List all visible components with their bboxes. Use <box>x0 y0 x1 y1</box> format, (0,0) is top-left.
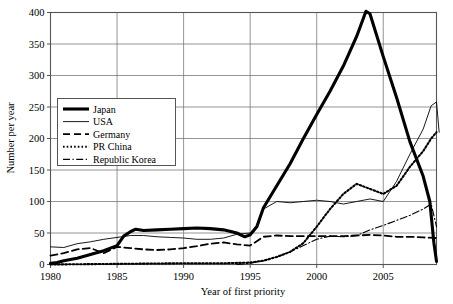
y-tick-label: 250 <box>29 102 45 113</box>
legend-label-pr-china: PR China <box>93 141 132 152</box>
x-tick-label: 2005 <box>373 271 394 282</box>
legend-label-usa: USA <box>93 116 114 127</box>
y-tick-label: 200 <box>29 133 45 144</box>
legend-label-japan: Japan <box>93 104 116 115</box>
y-tick-label: 0 <box>39 259 44 270</box>
x-tick-label: 1990 <box>173 271 194 282</box>
chart-canvas: 050100150200250300350400 198019851990199… <box>0 0 453 304</box>
legend-label-germany: Germany <box>93 129 130 140</box>
y-tick-label: 150 <box>29 165 45 176</box>
x-tick-label: 1985 <box>107 271 128 282</box>
x-tick-label: 2000 <box>306 271 327 282</box>
y-axis-title: Number per year <box>5 102 16 174</box>
y-tick-label: 400 <box>29 7 45 18</box>
legend-label-republic-korea: Republic Korea <box>93 154 157 165</box>
line-chart: 050100150200250300350400 198019851990199… <box>0 0 453 304</box>
y-tick-label: 300 <box>29 70 45 81</box>
y-tick-label: 350 <box>29 39 45 50</box>
y-tick-label: 50 <box>34 228 45 239</box>
x-axis-title: Year of first priority <box>201 286 286 297</box>
x-tick-label: 1980 <box>40 271 61 282</box>
chart-legend: JapanUSAGermanyPR ChinaRepublic Korea <box>58 99 176 166</box>
x-tick-label: 1995 <box>240 271 261 282</box>
y-tick-label: 100 <box>29 196 45 207</box>
